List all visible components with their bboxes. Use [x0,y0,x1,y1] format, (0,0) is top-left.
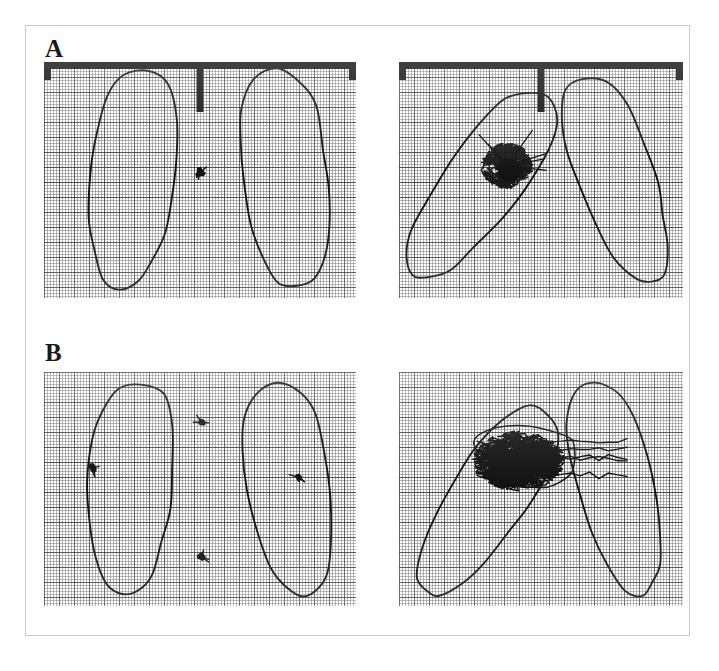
panel-b-left [44,372,356,606]
figure-root: A B [0,0,719,671]
panel-a-left [44,62,356,298]
panel-label-b: B [45,340,62,365]
panel-a-right [399,62,683,298]
panel-label-a: A [45,36,63,61]
panel-b-right [399,372,683,606]
